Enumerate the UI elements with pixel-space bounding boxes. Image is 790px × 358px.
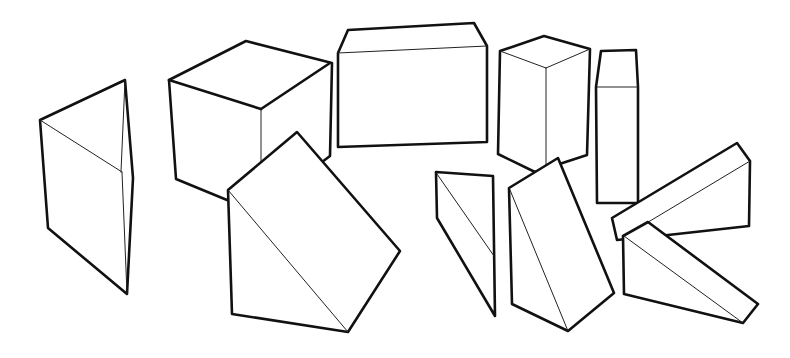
tall-column <box>596 50 638 203</box>
rectangular-block-wide <box>338 23 487 147</box>
wedge-small <box>436 172 495 316</box>
geometric-solids-drawing <box>0 0 790 358</box>
wedge-lying-front <box>623 222 758 323</box>
triangular-prism-left <box>40 80 133 294</box>
rectangular-block-tall <box>498 36 590 172</box>
